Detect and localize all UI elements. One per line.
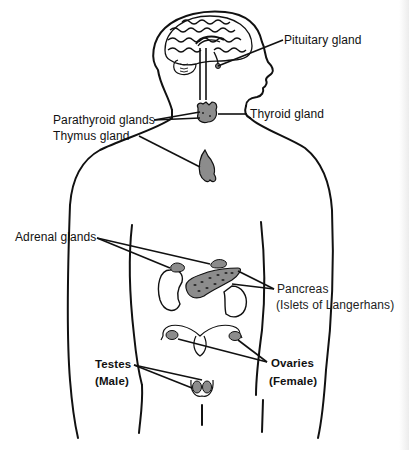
- thymus-gland-icon: [199, 150, 215, 182]
- label-male: (Male): [95, 374, 129, 388]
- leader-adrenal-b: [97, 238, 210, 264]
- leader-ovaries-a: [178, 339, 267, 362]
- ovary-icon: [166, 331, 241, 341]
- label-female: (Female): [269, 374, 317, 388]
- leader-lines: [97, 40, 283, 388]
- label-thymus-gland: Thymus gland: [53, 129, 130, 143]
- arm-right-inner: [256, 222, 264, 395]
- label-adrenal-glands: Adrenal glands: [15, 230, 96, 244]
- clipped-caption: [40, 441, 370, 450]
- leg-right: [262, 400, 263, 432]
- label-testes: Testes: [95, 357, 131, 371]
- label-pituitary-gland: Pituitary gland: [284, 33, 362, 47]
- pancreas-icon: [186, 268, 241, 298]
- testes-icon: [191, 380, 213, 396]
- uterus-icon: [161, 325, 242, 356]
- label-ovaries: Ovaries: [271, 356, 314, 370]
- leg-left: [139, 385, 142, 433]
- page-edge-shadow: [399, 0, 409, 450]
- label-pancreas: Pancreas: [277, 282, 329, 296]
- diagram-canvas: Pituitary gland Thyroid gland Parathyroi…: [0, 0, 409, 450]
- label-parathyroid-glands: Parathyroid glands: [53, 113, 155, 127]
- label-thyroid-gland: Thyroid gland: [250, 107, 324, 121]
- arm-left-inner: [130, 225, 142, 385]
- torso-left-outline: [68, 118, 172, 438]
- label-islets-of-langerhans: (Islets of Langerhans): [276, 298, 394, 312]
- leader-thymus: [139, 136, 200, 167]
- thyroid-gland-icon: [197, 102, 216, 123]
- torso-right-outline: [250, 118, 333, 438]
- endocrine-diagram: [0, 0, 409, 450]
